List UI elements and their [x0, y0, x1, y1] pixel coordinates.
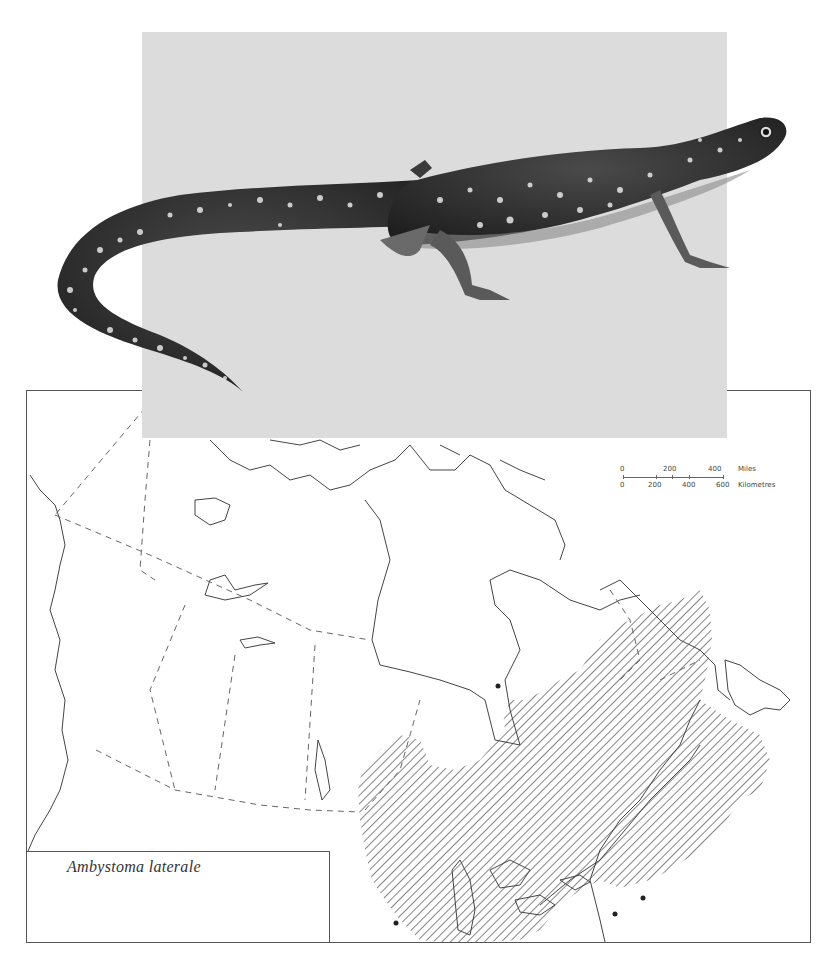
scale-tick: [672, 475, 673, 479]
species-label: Ambystoma laterale: [67, 858, 201, 876]
range-area: [358, 590, 770, 942]
islands-arctic: [270, 440, 545, 480]
coastline-arctic: [210, 440, 565, 560]
scale-miles-unit: Miles: [738, 465, 756, 473]
scale-tick: [689, 475, 690, 479]
scale-km-unit: Kilometres: [738, 481, 775, 489]
coastline-pacific: [28, 475, 68, 851]
scale-km-tick-400: 400: [682, 481, 695, 489]
scale-miles-tick-400: 400: [708, 465, 721, 473]
newfoundland: [725, 660, 790, 715]
scale-miles-tick-200: 200: [663, 465, 676, 473]
lake-winnipeg: [315, 740, 330, 800]
scale-bar: 0 200 400 Miles 0 200 400 600 Kilometres: [620, 465, 790, 495]
scale-line: [623, 477, 723, 478]
lake-athabasca: [240, 637, 275, 648]
scale-km-tick-600: 600: [716, 481, 729, 489]
lake-great-slave: [205, 575, 268, 600]
scale-km-tick-200: 200: [648, 481, 661, 489]
scale-miles-tick-0: 0: [620, 465, 624, 473]
salamander-illustration: [0, 0, 833, 420]
front-leg: [650, 190, 730, 268]
lake-great-bear: [195, 498, 230, 525]
legend-box: Ambystoma laterale: [26, 851, 330, 943]
scale-tick: [723, 475, 724, 479]
scale-tick: [656, 475, 657, 479]
scale-tick: [623, 475, 624, 479]
scale-km-tick-0: 0: [620, 481, 624, 489]
